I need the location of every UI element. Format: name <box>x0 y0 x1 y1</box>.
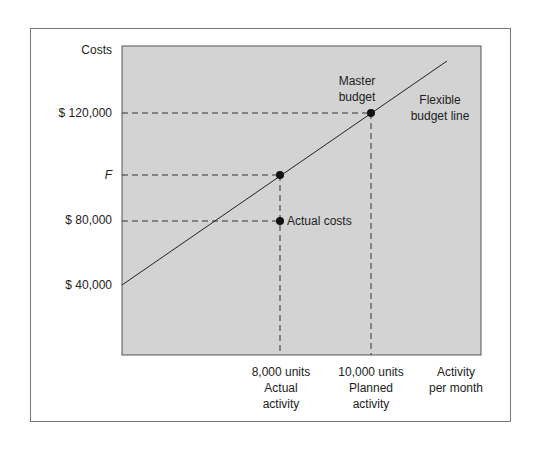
y-tick-40000: $ 40,000 <box>65 278 112 292</box>
master-budget-point <box>367 109 375 117</box>
x-axis-label-1: Activity <box>437 365 475 379</box>
x-tick-10000-line1: 10,000 units <box>338 365 403 379</box>
master-budget-label-2: budget <box>339 90 376 104</box>
y-axis-label: Costs <box>81 43 112 57</box>
x-axis-label-2: per month <box>429 381 483 395</box>
chart: Costs $ 120,000 F $ 80,000 $ 40,000 Mast… <box>0 0 536 449</box>
x-tick-8000-line1: 8,000 units <box>252 365 311 379</box>
x-tick-8000-line2: Actual <box>264 381 297 395</box>
x-tick-8000-line3: activity <box>263 397 300 411</box>
flexible-budget-point <box>276 171 284 179</box>
flexible-budget-label-1: Flexible <box>419 93 461 107</box>
actual-costs-label: Actual costs <box>287 214 352 228</box>
master-budget-label-1: Master <box>339 74 376 88</box>
x-tick-10000-line2: Planned <box>349 381 393 395</box>
y-tick-80000: $ 80,000 <box>65 213 112 227</box>
actual-costs-point <box>276 217 284 225</box>
y-tick-F: F <box>105 168 113 182</box>
x-tick-10000-line3: activity <box>353 397 390 411</box>
y-tick-120000: $ 120,000 <box>59 106 113 120</box>
flexible-budget-label-2: budget line <box>411 109 470 123</box>
